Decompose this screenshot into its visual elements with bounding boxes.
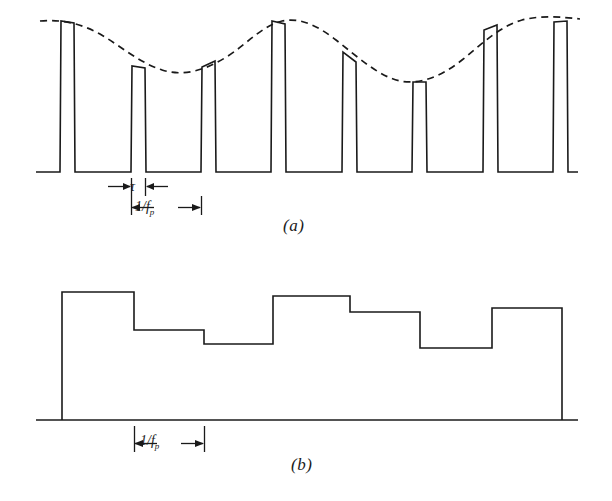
period-numerator-a: 1/ — [135, 199, 146, 214]
tau-arrow-right-head — [146, 183, 154, 190]
period-arrow-right-head-b — [195, 440, 204, 447]
panel-a-plot — [0, 0, 612, 250]
period-numerator-b: 1/ — [140, 433, 151, 448]
period-label-b: 1/fp — [140, 434, 159, 451]
caption-a: (a) — [283, 216, 304, 236]
pulse-train-b — [62, 292, 562, 420]
caption-b: (b) — [291, 455, 312, 475]
panel-a — [0, 0, 612, 250]
figure-root: τ 1/fp (a) 1/fp (b) — [0, 0, 612, 501]
period-sub-b: p — [155, 441, 160, 451]
modulating-envelope-curve — [40, 17, 580, 82]
period-label-a: 1/fp — [135, 200, 154, 217]
tau-glyph: τ — [130, 179, 135, 194]
period-arrow-right-head-a — [192, 204, 201, 211]
pulse-train-a — [36, 21, 578, 172]
period-sub-a: p — [150, 207, 155, 217]
tau-label: τ — [130, 180, 135, 194]
